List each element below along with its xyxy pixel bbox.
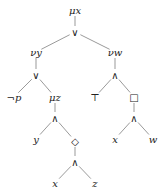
tree-edge: [59, 166, 71, 178]
tree-node-label: ∨: [32, 70, 39, 81]
tree-node-label: μz: [49, 92, 61, 103]
tree-node-label: x: [112, 134, 118, 145]
tree-edge: [59, 123, 71, 137]
tree-node-label: z: [91, 178, 98, 189]
tree-edge: [99, 79, 111, 92]
tree-edge: [138, 122, 149, 134]
formula-tree: μx∨νyνw∨∧¬pμz⊤□∧y◇∧xw∧xz: [0, 0, 166, 193]
tree-node-label: ∨: [71, 27, 78, 38]
tree-edge: [41, 35, 69, 50]
tree-edge: [119, 122, 130, 134]
tree-node-label: ⊤: [90, 92, 99, 103]
tree-edge: [40, 122, 51, 134]
tree-node-label: ∧: [51, 113, 58, 124]
tree-node-label: ∧: [130, 113, 137, 124]
tree-node-label: □: [129, 92, 138, 103]
tree-node-label: μx: [69, 5, 81, 16]
tree-nodes: μx∨νyνw∨∧¬pμz⊤□∧y◇∧xw∧xz: [7, 5, 158, 189]
tree-node-label: w: [149, 134, 158, 145]
tree-edge: [80, 35, 109, 50]
tree-node-label: νy: [30, 47, 42, 58]
tree-node-label: x: [52, 178, 58, 189]
tree-node-label: ◇: [71, 136, 79, 147]
tree-node-label: ∧: [71, 157, 78, 168]
tree-node-label: ∧: [111, 70, 118, 81]
tree-node-label: ¬p: [7, 92, 22, 103]
tree-edge: [79, 166, 91, 178]
tree-node-label: y: [32, 134, 39, 145]
tree-node-label: νw: [108, 47, 123, 58]
